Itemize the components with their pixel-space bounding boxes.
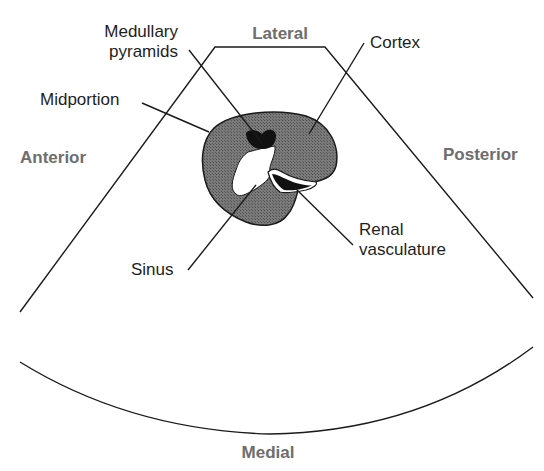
label-renal-vasculature: Renal vasculature	[359, 220, 446, 260]
label-medullary-pyramids: Medullary pyramids	[60, 22, 178, 62]
leader-renal-vasculature	[295, 188, 353, 245]
label-midportion: Midportion	[40, 90, 119, 110]
label-renal-vasculature-line2: vasculature	[359, 240, 446, 260]
kidney	[202, 112, 336, 225]
label-renal-vasculature-line1: Renal	[359, 220, 446, 240]
leader-midportion	[142, 103, 209, 132]
orientation-anterior: Anterior	[20, 148, 86, 168]
kidney-ultrasound-diagram	[0, 0, 544, 471]
leader-cortex	[309, 43, 364, 134]
sector-bottom-arc	[20, 347, 533, 434]
orientation-posterior: Posterior	[443, 145, 518, 165]
label-medullary-pyramids-line1: Medullary	[60, 22, 178, 42]
orientation-medial: Medial	[218, 443, 318, 463]
label-cortex: Cortex	[370, 33, 420, 53]
orientation-lateral: Lateral	[230, 24, 330, 44]
label-sinus: Sinus	[131, 260, 174, 280]
label-medullary-pyramids-line2: pyramids	[60, 42, 178, 62]
